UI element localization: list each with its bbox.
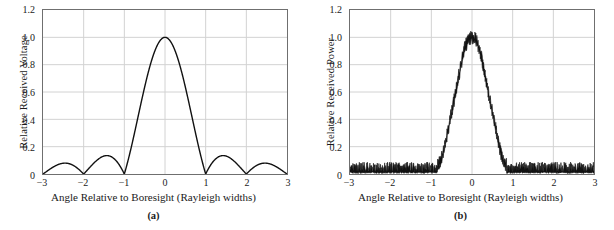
y-tick-a-5: 1.0	[0, 31, 35, 42]
x-tick-b-3: 0	[452, 177, 492, 188]
y-tick-b-6: 1.2	[282, 4, 342, 15]
y-tick-a-4: 0.8	[0, 59, 35, 70]
panel-caption-b: (b)	[307, 210, 614, 221]
y-tick-b-1: 0.2	[282, 142, 342, 153]
x-tick-labels-b: −3 −2 −1 0 1 2 3	[349, 9, 595, 39]
x-tick-a-2: −1	[104, 177, 144, 188]
x-tick-a-4: 1	[186, 177, 226, 188]
x-tick-b-2: −1	[411, 177, 451, 188]
x-tick-labels-a: −3 −2 −1 0 1 2 3	[42, 9, 288, 39]
x-tick-a-1: −2	[63, 177, 103, 188]
y-tick-b-2: 0.4	[282, 114, 342, 125]
y-tick-b-5: 1.0	[282, 31, 342, 42]
y-tick-a-3: 0.6	[0, 87, 35, 98]
panel-a: Relative Received Voltage 0 0.2 0.4 0.6 …	[0, 0, 307, 230]
y-tick-b-3: 0.6	[282, 87, 342, 98]
y-tick-a-1: 0.2	[0, 142, 35, 153]
y-tick-b-4: 0.8	[282, 59, 342, 70]
panel-b: Relative Received Power 0 0.2 0.4 0.6 0.…	[307, 0, 614, 230]
y-tick-a-2: 0.4	[0, 114, 35, 125]
x-tick-a-0: −3	[22, 177, 62, 188]
panel-caption-a: (a)	[0, 210, 307, 221]
y-tick-a-6: 1.2	[0, 4, 35, 15]
x-axis-label-b: Angle Relative to Boresight (Rayleigh wi…	[307, 191, 614, 203]
x-tick-a-3: 0	[145, 177, 185, 188]
x-tick-b-5: 2	[534, 177, 574, 188]
x-tick-b-0: −3	[329, 177, 369, 188]
x-tick-b-1: −2	[370, 177, 410, 188]
x-tick-a-5: 2	[227, 177, 267, 188]
figure-container: Relative Received Voltage 0 0.2 0.4 0.6 …	[0, 0, 614, 230]
x-axis-label-a: Angle Relative to Boresight (Rayleigh wi…	[0, 191, 307, 203]
x-tick-b-6: 3	[575, 177, 614, 188]
x-tick-b-4: 1	[493, 177, 533, 188]
